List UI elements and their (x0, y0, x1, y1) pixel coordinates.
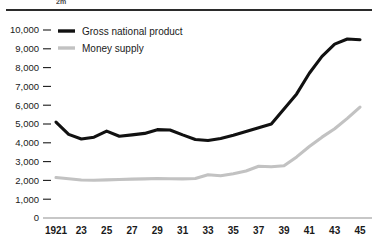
x-axis-tick-label: 33 (202, 225, 214, 236)
chart-figure: 2m 01,0002,0003,0004,0005,0006,0007,0008… (0, 0, 376, 247)
x-axis-tick-label: 43 (329, 225, 341, 236)
chart-legend: Gross national productMoney supply (58, 26, 183, 54)
x-axis-tick-label: 37 (253, 225, 265, 236)
x-axis-tick-label: 35 (228, 225, 240, 236)
y-axis-tick-label: 10,000 (10, 24, 39, 35)
y-axis-tick-label: 8,000 (15, 62, 39, 73)
x-axis-tick-label: 31 (177, 225, 189, 236)
series-line-money-supply (56, 107, 360, 180)
y-axis-tick-label: 5,000 (15, 118, 39, 129)
x-axis: 1921232527293133353739414345 (43, 218, 372, 236)
x-axis-tick-label: 45 (354, 225, 366, 236)
y-axis-tick-label: 1,000 (15, 194, 39, 205)
y-axis-tick-label: 6,000 (15, 100, 39, 111)
legend-item-gross-national-product: Gross national product (82, 26, 183, 37)
y-axis: 01,0002,0003,0004,0005,0006,0007,0008,00… (10, 24, 51, 223)
legend-item-money-supply: Money supply (82, 43, 144, 54)
y-axis-tick-label: 2,000 (15, 175, 39, 186)
x-axis-tick-label: 41 (304, 225, 316, 236)
y-axis-tick-label: 7,000 (15, 81, 39, 92)
x-axis-tick-label: 23 (76, 225, 88, 236)
x-axis-tick-label: 1921 (45, 225, 68, 236)
series-line-gross-national-product (56, 39, 360, 141)
x-axis-tick-label: 29 (152, 225, 164, 236)
x-axis-tick-label: 39 (278, 225, 290, 236)
line-chart-plot: 01,0002,0003,0004,0005,0006,0007,0008,00… (0, 0, 376, 247)
y-axis-tick-label: 0 (34, 212, 39, 223)
x-axis-tick-label: 27 (126, 225, 138, 236)
y-axis-tick-label: 3,000 (15, 156, 39, 167)
y-axis-tick-label: 4,000 (15, 137, 39, 148)
x-axis-tick-label: 25 (101, 225, 113, 236)
y-axis-tick-label: 9,000 (15, 43, 39, 54)
chart-series (56, 39, 360, 180)
